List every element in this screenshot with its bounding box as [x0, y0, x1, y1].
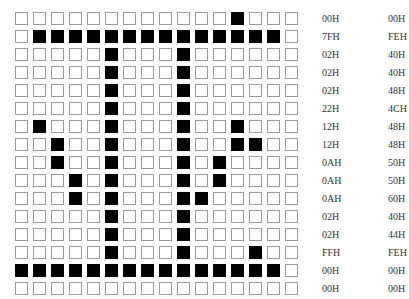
pixel-off: [33, 66, 46, 79]
hex-left-byte: 0AH: [322, 192, 388, 205]
pixel-on: [195, 30, 208, 43]
pixel-off: [159, 66, 172, 79]
pixel-on: [267, 264, 280, 277]
hex-row: 22H4CH: [322, 102, 409, 120]
pixel-off: [33, 282, 46, 295]
pixel-off: [159, 282, 172, 295]
pixel-off: [249, 228, 262, 241]
pixel-on: [105, 120, 118, 133]
grid-row: [15, 228, 303, 246]
pixel-off: [141, 282, 154, 295]
pixel-off: [285, 264, 298, 277]
pixel-off: [69, 282, 82, 295]
pixel-off: [141, 156, 154, 169]
pixel-on: [105, 264, 118, 277]
pixel-off: [51, 210, 64, 223]
pixel-on: [249, 138, 262, 151]
pixel-off: [195, 282, 208, 295]
grid-row: [15, 66, 303, 84]
pixel-off: [285, 210, 298, 223]
pixel-off: [249, 102, 262, 115]
hex-row: 02H40H: [322, 66, 409, 84]
pixel-off: [87, 282, 100, 295]
hex-right-byte: 00H: [388, 12, 409, 25]
pixel-off: [159, 246, 172, 259]
pixel-on: [195, 264, 208, 277]
pixel-off: [141, 138, 154, 151]
pixel-on: [51, 156, 64, 169]
pixel-off: [195, 246, 208, 259]
pixel-off: [15, 210, 28, 223]
pixel-off: [195, 12, 208, 25]
pixel-off: [177, 12, 190, 25]
pixel-on: [249, 30, 262, 43]
pixel-on: [87, 30, 100, 43]
pixel-off: [105, 282, 118, 295]
pixel-on: [105, 192, 118, 205]
hex-right-byte: 40H: [388, 66, 409, 79]
pixel-off: [123, 156, 136, 169]
pixel-off: [69, 138, 82, 151]
grid-row: [15, 210, 303, 228]
pixel-on: [15, 264, 28, 277]
grid-row: [15, 282, 303, 299]
pixel-off: [195, 66, 208, 79]
pixel-off: [15, 282, 28, 295]
pixel-off: [213, 102, 226, 115]
pixel-off: [69, 246, 82, 259]
pixel-off: [51, 192, 64, 205]
pixel-off: [159, 12, 172, 25]
grid-row: [15, 48, 303, 66]
pixel-off: [15, 12, 28, 25]
pixel-off: [285, 48, 298, 61]
pixel-off: [285, 192, 298, 205]
pixel-on: [231, 138, 244, 151]
pixel-off: [15, 192, 28, 205]
pixel-on: [105, 246, 118, 259]
hex-right-byte: 60H: [388, 192, 409, 205]
pixel-off: [249, 174, 262, 187]
pixel-off: [249, 210, 262, 223]
hex-right-byte: 48H: [388, 84, 409, 97]
pixel-on: [105, 228, 118, 241]
pixel-off: [87, 228, 100, 241]
pixel-off: [249, 12, 262, 25]
pixel-on: [123, 264, 136, 277]
pixel-off: [195, 138, 208, 151]
pixel-off: [285, 30, 298, 43]
pixel-off: [231, 156, 244, 169]
pixel-on: [105, 30, 118, 43]
pixel-on: [105, 138, 118, 151]
pixel-on: [177, 102, 190, 115]
pixel-off: [33, 102, 46, 115]
pixel-off: [285, 84, 298, 97]
pixel-on: [123, 30, 136, 43]
hex-left-byte: 0AH: [322, 156, 388, 169]
grid-row: [15, 30, 303, 48]
grid-row: [15, 84, 303, 102]
hex-left-byte: 02H: [322, 84, 388, 97]
pixel-off: [69, 120, 82, 133]
pixel-on: [213, 264, 226, 277]
pixel-off: [231, 282, 244, 295]
pixel-off: [69, 102, 82, 115]
pixel-off: [33, 228, 46, 241]
grid-row: [15, 156, 303, 174]
pixel-off: [123, 66, 136, 79]
pixel-off: [69, 48, 82, 61]
pixel-off: [213, 48, 226, 61]
pixel-off: [87, 138, 100, 151]
grid-row: [15, 264, 303, 282]
pixel-off: [285, 138, 298, 151]
pixel-on: [141, 264, 154, 277]
pixel-on: [213, 156, 226, 169]
pixel-off: [87, 48, 100, 61]
pixel-off: [51, 282, 64, 295]
pixel-on: [177, 30, 190, 43]
pixel-off: [159, 192, 172, 205]
pixel-off: [231, 48, 244, 61]
grid-row: [15, 192, 303, 210]
pixel-off: [249, 282, 262, 295]
pixel-off: [123, 102, 136, 115]
pixel-off: [213, 138, 226, 151]
